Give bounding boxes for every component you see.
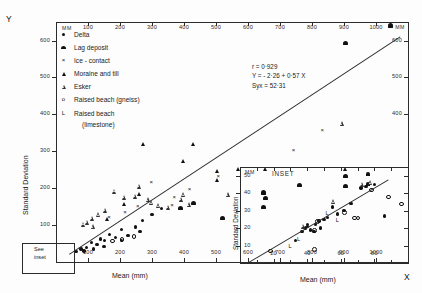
data-point <box>138 230 141 233</box>
open-triangle-cutout <box>226 194 228 196</box>
data-point <box>388 23 393 27</box>
see-inset-line2: inset <box>34 254 46 262</box>
inset-x-minor-tick <box>391 260 392 264</box>
data-point <box>261 190 266 194</box>
data-point <box>166 205 170 210</box>
main-left-tick <box>52 114 57 115</box>
inset-y-tick-label: 40 <box>244 190 251 196</box>
main-top-tick-label: 700 <box>273 25 287 31</box>
main-bottom-tick <box>120 258 121 263</box>
data-point <box>81 222 85 227</box>
data-point <box>343 41 348 45</box>
inset-top-tick <box>391 167 392 171</box>
main-bottom-tick <box>88 258 89 263</box>
stat-correlation: r = 0·929 <box>252 62 305 71</box>
data-point <box>141 219 144 222</box>
main-left-tick-label: 400 <box>34 111 50 117</box>
inset-right-axis <box>408 167 409 264</box>
see-inset-box-top <box>22 243 74 244</box>
y-axis-symbol: Y <box>6 14 12 24</box>
inset-right-tick <box>404 228 408 229</box>
data-point <box>99 237 102 240</box>
data-point: × <box>321 127 325 133</box>
inset-data-point <box>312 228 317 233</box>
main-bottom-tick-label: 600 <box>241 250 255 256</box>
main-top-axis <box>56 22 408 23</box>
inset-x-minor-tick <box>257 260 258 264</box>
main-left-tick-label: 100 <box>34 222 50 228</box>
data-point <box>137 184 141 189</box>
data-point: × <box>170 202 174 208</box>
data-point <box>156 203 160 208</box>
data-point <box>366 172 371 176</box>
open-triangle-cutout <box>91 226 93 228</box>
main-bottom-tick <box>184 258 185 263</box>
main-top-tick-label: 600 <box>241 25 255 31</box>
data-point <box>160 207 163 210</box>
legend-symbol-m-ice-leg: × <box>58 54 69 67</box>
open-triangle-cutout <box>133 195 135 197</box>
main-left-tick <box>52 77 57 78</box>
open-triangle-cutout <box>340 123 342 125</box>
main-left-tick-label: 300 <box>34 148 50 154</box>
see-inset-line1: See <box>34 246 46 254</box>
inset-y-tick-label: 30 <box>244 208 251 214</box>
legend-symbol-m-delta-leg <box>58 28 69 41</box>
main-right-tick <box>404 77 409 78</box>
legend-symbol-m-mor-leg <box>58 67 69 80</box>
open-triangle-cutout <box>179 198 181 200</box>
data-point <box>103 239 106 242</box>
inset-x-tick-label: 60 <box>336 251 346 257</box>
stat-stderr: Syx = 52·31 <box>252 81 305 90</box>
inset-top-tick <box>257 167 258 171</box>
data-point <box>126 234 129 237</box>
data-point <box>150 213 153 216</box>
data-point <box>297 183 302 187</box>
data-point <box>191 142 195 146</box>
see-inset-box-left <box>22 243 23 273</box>
data-point <box>82 249 85 252</box>
inset-right-tick <box>404 246 408 247</box>
open-triangle-cutout <box>166 206 168 208</box>
legend-label: Esker <box>74 80 91 93</box>
main-top-tick-label: 800 <box>305 25 319 31</box>
data-point <box>340 121 344 126</box>
data-point <box>133 194 137 199</box>
main-bottom-tick <box>216 258 217 263</box>
data-point <box>122 195 126 200</box>
inset-top-tick <box>274 167 275 171</box>
inset-x-tick <box>307 259 308 264</box>
inset-right-tick <box>404 176 408 177</box>
inset-x-minor-tick <box>290 260 291 264</box>
main-left-tick <box>52 41 57 42</box>
open-triangle-cutout <box>103 209 105 211</box>
data-point: × <box>172 194 176 200</box>
data-point <box>96 212 100 217</box>
inset-data-point <box>399 202 404 207</box>
figure-root: Y X MM 1002003004005006007008009001000MM… <box>0 0 422 293</box>
main-top-tick-label: 400 <box>177 25 191 31</box>
data-point <box>91 224 95 229</box>
open-triangle-cutout <box>97 214 99 216</box>
main-bottom-tick-label: 400 <box>177 250 191 256</box>
inset-y-tick-label: 20 <box>244 225 251 231</box>
inset-x-minor-tick <box>324 260 325 264</box>
see-inset-box-bottom <box>22 273 75 274</box>
main-left-axis <box>56 22 57 263</box>
inset-y-tick-label: 10 <box>244 243 251 249</box>
data-point <box>179 197 183 202</box>
main-right-tick <box>404 41 409 42</box>
main-left-tick-label: 500 <box>34 74 50 80</box>
main-bottom-tick-label: 300 <box>145 250 159 256</box>
data-point <box>215 178 219 182</box>
data-point <box>110 239 115 244</box>
open-triangle-cutout <box>82 223 84 225</box>
main-top-tick-label: 500 <box>209 25 223 31</box>
legend-label: Ice - contact <box>74 54 110 67</box>
main-top-tick-label: 900 <box>337 25 351 31</box>
inset-data-point <box>368 180 372 185</box>
inset-title: INSET <box>272 171 294 177</box>
main-left-tick <box>52 188 57 189</box>
data-point <box>112 189 116 194</box>
inset-x-tick-label: 80 <box>369 251 379 257</box>
